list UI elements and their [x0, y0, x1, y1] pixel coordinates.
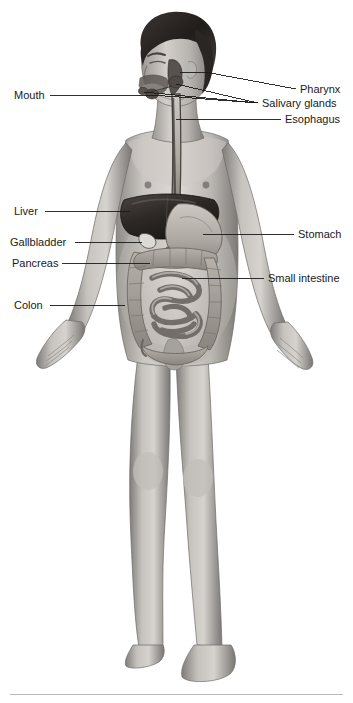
digestive-system-figure: Mouth Liver Gallbladder Pancreas Colon P… — [0, 0, 353, 703]
label-stomach: Stomach — [298, 228, 341, 240]
leader-pharynx — [205, 72, 296, 89]
nipple-left — [145, 182, 152, 189]
nipple-right — [203, 182, 210, 189]
left-leg — [130, 355, 170, 648]
label-liver: Liver — [14, 205, 38, 217]
left-foot — [125, 645, 164, 668]
label-gallbladder: Gallbladder — [10, 236, 66, 248]
label-small-intestine: Small intestine — [268, 272, 340, 284]
label-pancreas: Pancreas — [12, 257, 58, 269]
footer-divider — [10, 694, 343, 695]
right-knee — [183, 459, 213, 497]
label-mouth: Mouth — [14, 89, 45, 101]
label-colon: Colon — [14, 299, 43, 311]
right-foot — [182, 645, 236, 682]
sublingual-gland — [139, 87, 148, 94]
label-esophagus: Esophagus — [285, 113, 340, 125]
left-hand — [36, 320, 84, 368]
right-leg — [176, 356, 222, 648]
left-knee — [133, 452, 163, 490]
label-salivary-glands: Salivary glands — [262, 97, 337, 109]
label-pharynx: Pharynx — [300, 83, 340, 95]
